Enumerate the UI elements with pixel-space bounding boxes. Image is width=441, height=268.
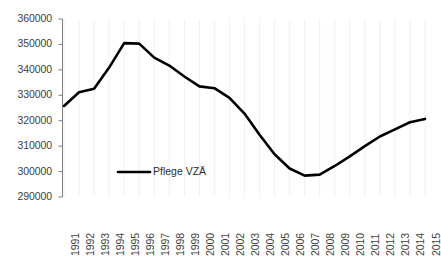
- x-axis-tick-label: 2001: [219, 233, 231, 256]
- chart-container: 3600003500003400003300003200003100003000…: [0, 0, 441, 268]
- legend-entry-label: Pflege VZÄ: [153, 165, 206, 177]
- x-axis-tick-label: 1993: [99, 233, 111, 256]
- x-axis-tick-label: 2008: [324, 233, 336, 256]
- x-axis-tick-label: 2009: [339, 233, 351, 256]
- x-axis-tick-label: 2015: [430, 233, 441, 256]
- x-axis-tick-label: 2012: [384, 233, 396, 256]
- x-axis-tick-label: 2013: [399, 233, 411, 256]
- y-axis-tick-label: 360000: [0, 12, 52, 24]
- x-axis-tick-label: 2005: [279, 233, 291, 256]
- gridlines: [64, 19, 425, 197]
- x-axis-tick-label: 2006: [294, 233, 306, 256]
- x-axis-tick-label: 2007: [309, 233, 321, 256]
- y-axis-tick-label: 320000: [0, 114, 52, 126]
- x-axis-tick-label: 2000: [204, 233, 216, 256]
- x-axis-tick-label: 1991: [69, 233, 81, 256]
- y-axis-ticks: [59, 19, 63, 197]
- x-axis-tick-label: 2003: [249, 233, 261, 256]
- x-axis-tick-label: 1999: [189, 233, 201, 256]
- x-axis-tick-label: 2014: [414, 233, 426, 256]
- x-axis-tick-label: 1996: [144, 233, 156, 256]
- y-axis-tick-label: 310000: [0, 139, 52, 151]
- x-axis-tick-label: 2011: [369, 234, 381, 256]
- line-chart-plot: [0, 0, 441, 268]
- x-axis-tick-label: 1994: [114, 233, 126, 256]
- y-axis-tick-label: 350000: [0, 37, 52, 49]
- x-axis-tick-label: 1995: [129, 233, 141, 256]
- x-axis-tick-label: 1992: [84, 233, 96, 256]
- y-axis-tick-label: 300000: [0, 165, 52, 177]
- x-axis-tick-label: 2010: [354, 233, 366, 256]
- y-axis-tick-label: 330000: [0, 88, 52, 100]
- x-axis-tick-label: 2004: [264, 233, 276, 256]
- x-axis-tick-label: 2002: [234, 233, 246, 256]
- x-axis-tick-label: 1998: [174, 233, 186, 256]
- y-axis-tick-label: 290000: [0, 190, 52, 202]
- y-axis-tick-label: 340000: [0, 63, 52, 75]
- x-axis-tick-label: 1997: [159, 233, 171, 256]
